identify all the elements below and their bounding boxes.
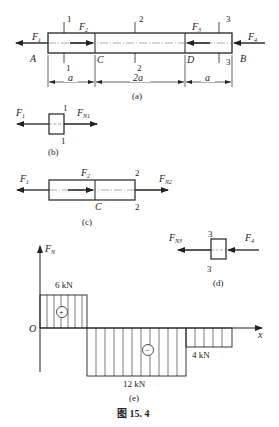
force-fn1-label: FN1 [76, 107, 90, 119]
point-b: B [240, 53, 246, 64]
point-c: C [95, 201, 102, 212]
dim-2a: 2a [133, 72, 143, 83]
minus-sign: − [145, 346, 150, 355]
region-negative-large [87, 328, 186, 376]
panel-b: F1 FN1 1 1 (b) [15, 103, 97, 157]
y-axis-label: FN [44, 243, 56, 255]
point-c: C [97, 54, 104, 65]
section-2-bottom: 2 [135, 202, 140, 212]
force-f1-label: F1 [15, 107, 25, 119]
dim-a-left: a [68, 72, 73, 83]
panel-d: FN3 F4 3 3 (d) [168, 229, 259, 288]
figure-caption: 图 15. 4 [117, 408, 150, 419]
point-d: D [186, 54, 195, 65]
figure-15-4: 1 1 2 2 3 3 F1 F2 F3 F4 A C D B a 2a [0, 0, 279, 427]
force-f2-label: F2 [80, 167, 90, 179]
section-3-bottom: 3 [226, 57, 231, 67]
section-2-top: 2 [135, 168, 140, 178]
point-a: A [29, 53, 37, 64]
value-4kn: 4 kN [192, 350, 210, 360]
x-axis-label: x [257, 329, 263, 340]
panel-a: 1 1 2 2 3 3 F1 F2 F3 F4 A C D B a 2a [16, 14, 265, 101]
section-1-bottom: 1 [61, 136, 66, 146]
force-fn2-label: FN2 [158, 173, 172, 185]
force-f4-label: F4 [247, 31, 257, 43]
force-fn3-label: FN3 [168, 232, 182, 244]
force-f4-label: F4 [244, 232, 254, 244]
panel-e-axial-force-diagram: FN x O + 6 kN − 12 kN 4 kN [29, 243, 263, 403]
section-2-top: 2 [139, 14, 144, 24]
dim-a-right: a [205, 72, 210, 83]
segment-box [211, 239, 226, 259]
panel-e-label: (e) [129, 393, 139, 403]
panel-c-label: (c) [82, 217, 92, 227]
section-3-top: 3 [226, 14, 231, 24]
force-f1-label: F1 [19, 173, 29, 185]
section-3-top: 3 [208, 229, 213, 239]
force-f3-label: F3 [191, 21, 201, 33]
force-f1-label: F1 [31, 31, 41, 43]
panel-b-label: (b) [48, 147, 59, 157]
region-negative-small [186, 328, 232, 347]
panel-a-label: (a) [132, 91, 142, 101]
panel-d-label: (d) [213, 278, 224, 288]
section-1-top: 1 [67, 14, 72, 24]
section-3-bottom: 3 [207, 264, 212, 274]
section-1-top: 1 [63, 103, 68, 113]
value-12kn: 12 kN [123, 379, 146, 389]
plus-sign: + [59, 308, 64, 317]
panel-c: F1 F2 FN2 2 2 C (c) [17, 167, 172, 227]
value-6kn: 6 kN [55, 280, 73, 290]
origin-label: O [29, 323, 36, 334]
force-f2-label: F2 [78, 21, 88, 33]
